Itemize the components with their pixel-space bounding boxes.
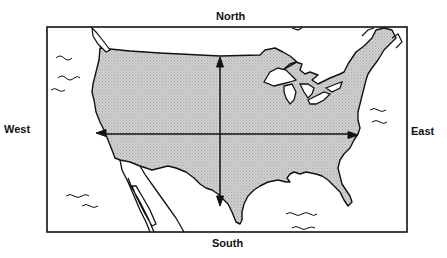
us-map	[0, 0, 447, 258]
baja-california	[120, 160, 184, 232]
us-landmass	[92, 28, 396, 224]
